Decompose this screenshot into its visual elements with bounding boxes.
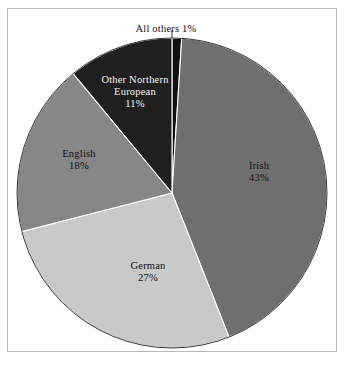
pie-chart-canvas bbox=[0, 0, 345, 369]
slice-label-all-others-text: All others 1% bbox=[136, 23, 197, 34]
slice-label-english: English 18% bbox=[33, 148, 125, 172]
slice-label-all-others: All others 1% bbox=[106, 18, 226, 36]
slice-label-other-northern-european: Other Northern European 11% bbox=[77, 74, 193, 109]
slice-label-german-text: German bbox=[98, 260, 198, 272]
slice-label-other-northern-european-line1: Other Northern bbox=[77, 74, 193, 86]
slice-value-german: 27% bbox=[98, 272, 198, 284]
slice-label-other-northern-european-line2: European bbox=[77, 86, 193, 98]
slice-value-other-northern-european: 11% bbox=[77, 98, 193, 110]
slice-label-irish: Irish 43% bbox=[214, 160, 304, 184]
slice-value-english: 18% bbox=[33, 160, 125, 172]
slice-label-german: German 27% bbox=[98, 260, 198, 284]
slice-label-english-text: English bbox=[33, 148, 125, 160]
slice-value-irish: 43% bbox=[214, 172, 304, 184]
pie-chart-figure: All others 1% Other Northern European 11… bbox=[0, 0, 345, 369]
slice-label-irish-text: Irish bbox=[214, 160, 304, 172]
